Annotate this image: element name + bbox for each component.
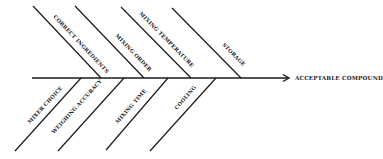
fishbone-diagram: ACCEPTABLE COMPOUND CORRECT INGREDIENTS … bbox=[0, 0, 383, 159]
spine bbox=[32, 75, 289, 82]
cause-label: MIXING TIME bbox=[114, 88, 147, 125]
cause-label: CORRECT INGREDIENTS bbox=[52, 14, 110, 75]
cause-label: COOLING bbox=[173, 84, 197, 111]
cause-label: MIXING TEMPERATURE bbox=[138, 10, 195, 68]
lower-bone-cooling: COOLING bbox=[150, 78, 216, 151]
upper-bone-correct-ingredients: CORRECT INGREDIENTS bbox=[33, 6, 110, 78]
effect-label: ACCEPTABLE COMPOUND bbox=[294, 75, 383, 81]
upper-bone-storage: STORAGE bbox=[172, 8, 247, 78]
lower-bone-mixing-time: MIXING TIME bbox=[106, 78, 168, 150]
upper-bone-mixing-temperature: MIXING TEMPERATURE bbox=[121, 7, 195, 78]
cause-label: STORAGE bbox=[221, 41, 246, 67]
